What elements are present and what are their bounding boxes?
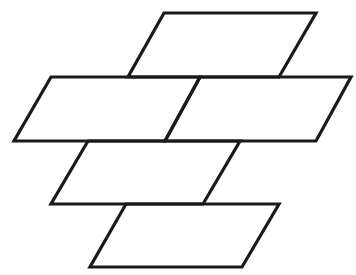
- parallelogram-top: [128, 13, 316, 77]
- parallelogram-diagram: [0, 0, 356, 275]
- parallelogram-bottom: [90, 204, 279, 267]
- parallelogram-middle-left: [14, 77, 200, 141]
- parallelogram-third: [51, 141, 240, 204]
- parallelogram-middle-right: [165, 77, 351, 141]
